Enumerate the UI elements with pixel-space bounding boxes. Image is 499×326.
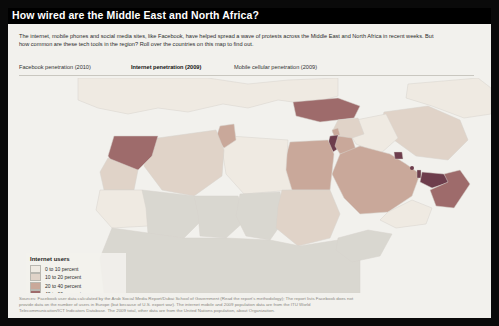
legend-swatch-10-20 (30, 273, 41, 281)
choropleth-map[interactable]: Internet users 0 to 10 percent 10 to 20 … (8, 78, 491, 293)
content-panel: The internet, mobile phones and social m… (8, 24, 491, 318)
tab-bar: Facebook penetration (2010) Internet pen… (19, 62, 474, 76)
header-bar: How wired are the Middle East and North … (8, 8, 491, 24)
legend-item: 0 to 10 percent (30, 265, 122, 272)
legend-item: 20 to 40 percent (30, 282, 122, 289)
source-note: Sources: Facebook user data calculated b… (19, 296, 479, 314)
legend-swatch-0-10 (30, 265, 41, 273)
legend-item: 10 to 20 percent (30, 274, 122, 281)
legend-label-0-10: 0 to 10 percent (45, 266, 78, 272)
country-kuwait[interactable] (394, 152, 403, 159)
map-legend: Internet users 0 to 10 percent 10 to 20 … (26, 253, 126, 293)
source-line-3: Telecommunication/ICT Indicators Databas… (19, 308, 479, 314)
legend-label-20-40: 20 to 40 percent (45, 283, 81, 289)
infographic-frame: How wired are the Middle East and North … (0, 0, 499, 326)
country-bahrain[interactable] (410, 166, 414, 170)
intro-line-2: how common are these tech tools in the r… (19, 40, 474, 48)
legend-swatch-20-40 (30, 282, 41, 290)
intro-line-1: The internet, mobile phones and social m… (19, 32, 474, 40)
legend-swatch-40-60 (30, 290, 41, 293)
tab-facebook-penetration[interactable]: Facebook penetration (2010) (19, 62, 91, 78)
legend-title: Internet users (30, 256, 122, 262)
tab-mobile-cellular-penetration[interactable]: Mobile cellular penetration (2009) (234, 62, 317, 78)
country-qatar[interactable] (417, 170, 421, 178)
intro-text: The internet, mobile phones and social m… (19, 32, 474, 48)
legend-item: 40 to 60 percent (30, 291, 122, 294)
legend-label-40-60: 40 to 60 percent (45, 291, 81, 293)
country-egypt[interactable] (284, 140, 334, 190)
legend-label-10-20: 10 to 20 percent (45, 274, 81, 280)
page-title: How wired are the Middle East and North … (12, 9, 259, 21)
